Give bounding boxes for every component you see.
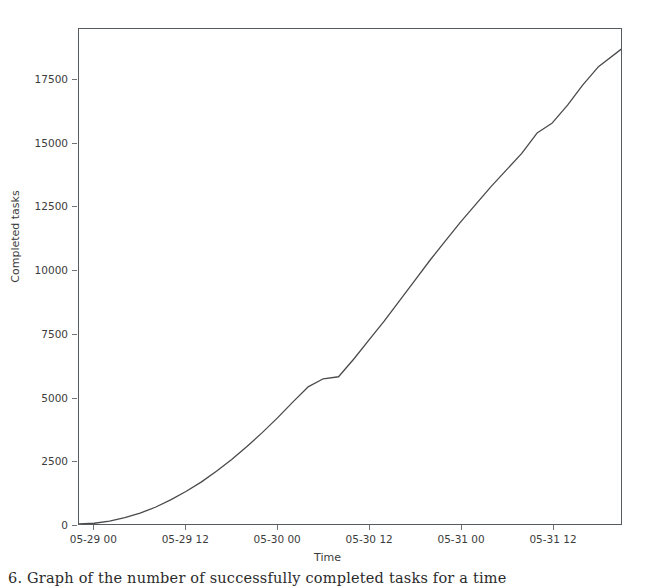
- y-tick-label: 15000: [0, 137, 68, 149]
- x-tick-mark: [93, 525, 94, 530]
- y-tick-label: 17500: [0, 73, 68, 85]
- x-tick-label: 05-29 12: [140, 533, 230, 545]
- x-tick-label: 05-31 00: [416, 533, 506, 545]
- y-tick-mark: [72, 461, 77, 462]
- series-line-completed-tasks: [79, 49, 621, 524]
- y-tick-label: 7500: [0, 328, 68, 340]
- x-tick-mark: [461, 525, 462, 530]
- y-tick-mark: [72, 79, 77, 80]
- line-series-svg: [79, 29, 621, 524]
- y-tick-mark: [72, 270, 77, 271]
- x-tick-label: 05-30 00: [232, 533, 322, 545]
- x-axis: 05-29 0005-29 1205-30 0005-30 1205-31 00…: [0, 525, 655, 566]
- x-axis-label: Time: [0, 551, 655, 564]
- figure-caption-text: 6. Graph of the number of successfully c…: [8, 570, 648, 587]
- y-tick-mark: [72, 143, 77, 144]
- figure-chart-completed-tasks: 025005000750010000125001500017500 Comple…: [0, 0, 655, 566]
- plot-area: [78, 28, 622, 525]
- y-tick-label: 2500: [0, 455, 68, 467]
- y-tick-mark: [72, 206, 77, 207]
- x-tick-label: 05-29 00: [48, 533, 138, 545]
- y-tick-mark: [72, 398, 77, 399]
- x-tick-mark: [277, 525, 278, 530]
- x-tick-mark: [369, 525, 370, 530]
- y-tick-label: 5000: [0, 392, 68, 404]
- y-axis-label: Completed tasks: [9, 177, 22, 297]
- y-axis: 025005000750010000125001500017500 Comple…: [0, 0, 78, 566]
- figure-caption: 6. Graph of the number of successfully c…: [0, 570, 655, 587]
- x-tick-label: 05-30 12: [324, 533, 414, 545]
- x-tick-mark: [185, 525, 186, 530]
- y-tick-mark: [72, 334, 77, 335]
- x-tick-label: 05-31 12: [508, 533, 598, 545]
- x-tick-mark: [553, 525, 554, 530]
